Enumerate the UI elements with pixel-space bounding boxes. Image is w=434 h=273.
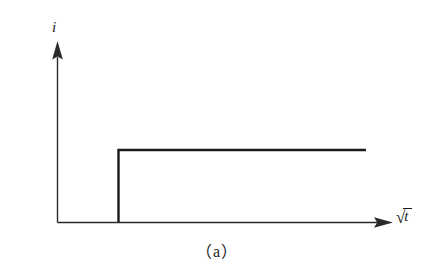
radical-group: √t <box>396 209 412 226</box>
radicand-label: t <box>403 208 411 224</box>
figure-container: i √t （a） <box>0 0 434 273</box>
x-axis-label: √t <box>396 209 412 226</box>
y-axis-arrowhead <box>52 41 63 60</box>
figure-caption: （a） <box>0 238 434 262</box>
step-curve-data-series <box>119 150 367 222</box>
y-axis-label: i <box>52 20 56 35</box>
plot-canvas <box>0 0 434 273</box>
